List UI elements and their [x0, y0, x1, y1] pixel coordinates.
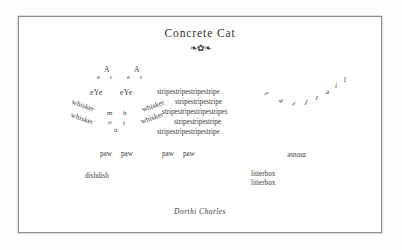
mouth-letter-u: u [114, 126, 118, 134]
cat-paw: paw [100, 151, 112, 158]
tail-letter-a2: a [325, 87, 330, 97]
cat-stripe-row: stripestripestripe [175, 98, 222, 106]
mouth-letter-m: m [107, 109, 112, 117]
cat-eye-right: eYe [120, 89, 132, 97]
litterbox-word: litterbox [251, 180, 275, 187]
tail-letter-a: a [277, 96, 286, 104]
tail-letter-t: t [263, 90, 272, 96]
tail-letter-t2: t [315, 93, 320, 102]
dish-word: dishdish [85, 173, 109, 180]
tail-letter-l2: l [344, 75, 347, 84]
cat-ear-left: A e r [95, 65, 119, 83]
cat-paw: paw [162, 151, 174, 158]
mouth-letter-h: h [123, 109, 127, 117]
cat-paw: paw [121, 151, 133, 158]
page-title: Concrete Cat [19, 27, 381, 39]
cat-stripe-row: stripestripestripe [174, 118, 221, 126]
poem-frame: Concrete Cat ❧✿❧ A e r A e r eYe eYe whi… [18, 16, 382, 233]
ear-letter-e: e [127, 73, 130, 80]
cat-stripe-row: stripestripestripestripe [157, 88, 220, 96]
author-signature: Dorthi Charles [19, 207, 381, 216]
ear-letter-r: r [110, 73, 112, 80]
mouse-word: mouse [287, 151, 306, 159]
mouth-letter-o: o [108, 118, 112, 126]
ear-letter-a: A [134, 65, 139, 74]
mouth-letter-t: t [123, 119, 125, 127]
ear-letter-a: A [104, 65, 109, 74]
tail-letter-i: i [290, 99, 297, 107]
poem-page: Concrete Cat ❧✿❧ A e r A e r eYe eYe whi… [0, 0, 402, 250]
cat-stripe-row: stripestripestripestripe [157, 128, 220, 136]
ornament-icon: ❧✿❧ [19, 43, 381, 53]
cat-eye-left: eYe [90, 89, 102, 97]
ear-letter-e: e [97, 73, 100, 80]
litterbox-word: litterbox [251, 171, 275, 178]
cat-paw: paw [183, 151, 195, 158]
cat-stripe-row: stripestripestripestripes [162, 108, 227, 116]
tail-letter-l: l [303, 98, 309, 107]
tail-letter-i2: i [334, 81, 337, 90]
ear-letter-r: r [140, 73, 142, 80]
cat-ear-right: A e r [125, 65, 149, 83]
